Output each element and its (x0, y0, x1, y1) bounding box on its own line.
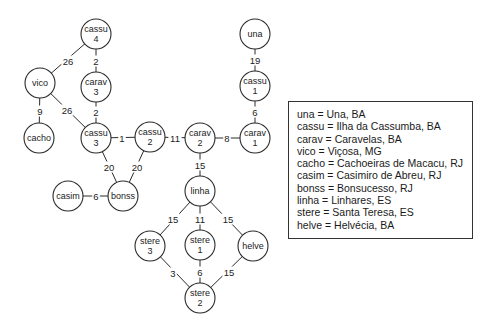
legend-entry-carav: carav = Caravelas, BA (297, 133, 472, 145)
node-carav1: carav1 (240, 123, 270, 153)
node-stere1: stere1 (185, 230, 215, 260)
edge-weight-label: 8 (224, 133, 229, 144)
node-label: linha (190, 186, 209, 196)
node-label: cassu (84, 128, 108, 138)
node-index: 1 (197, 245, 202, 255)
node-carav2: carav2 (185, 123, 215, 153)
edge-weight-label: 6 (197, 267, 202, 278)
legend-entry-una: una = Una, BA (297, 108, 472, 120)
edge-weight-label: 3 (170, 268, 175, 279)
node-casim: casim (53, 181, 83, 211)
edge-weight-label: 6 (93, 191, 98, 202)
edge-weight-label: 11 (170, 133, 180, 144)
node-label: vico (32, 78, 48, 88)
node-label: casim (56, 191, 80, 201)
node-helve: helve (238, 231, 268, 261)
node-vico: vico (25, 68, 55, 98)
edge-weight-label: 15 (224, 267, 235, 278)
node-label: helve (242, 241, 264, 251)
edge-weight-label: 6 (252, 107, 257, 118)
node-label: bonss (111, 191, 136, 201)
legend-entry-linha: linha = Linhares, ES (297, 194, 472, 206)
node-label: carav (244, 128, 267, 138)
edge-weight-label: 1 (119, 133, 124, 144)
node-una: una (240, 19, 270, 49)
node-label: cassu (243, 76, 267, 86)
node-stere3: stere3 (135, 231, 165, 261)
node-label: carav (189, 128, 212, 138)
node-index: 3 (147, 246, 152, 256)
node-cassu3: cassu3 (81, 123, 111, 153)
legend-entry-helve: helve = Helvécia, BA (297, 219, 472, 231)
node-cassu1: cassu1 (240, 71, 270, 101)
node-index: 3 (93, 87, 98, 97)
edge-weight-label: 20 (132, 162, 143, 173)
legend-entry-cassu: cassu = Ilha da Cassumba, BA (297, 120, 472, 132)
edge-weight-label: 2 (93, 56, 98, 67)
node-cassu2: cassu2 (135, 122, 165, 152)
node-label: una (247, 29, 262, 39)
node-label: carav (85, 77, 108, 87)
node-label: stere (140, 236, 160, 246)
node-index: 1 (252, 86, 257, 96)
node-label: cacho (27, 133, 51, 143)
node-index: 1 (252, 138, 257, 148)
edge-weight-label: 2 (93, 107, 98, 118)
edge-weight-label: 15 (168, 214, 179, 225)
legend-entry-stere: stere = Santa Teresa, ES (297, 206, 472, 218)
node-linha: linha (185, 176, 215, 206)
node-index: 3 (93, 138, 98, 148)
edge-weight-label: 19 (250, 55, 261, 66)
node-carav3: carav3 (81, 72, 111, 102)
node-label: cassu (84, 24, 108, 34)
node-index: 2 (147, 137, 152, 147)
node-cassu4: cassu4 (81, 19, 111, 49)
node-cacho: cacho (24, 123, 54, 153)
node-stere2: stere2 (185, 283, 215, 313)
legend-entry-vico: vico = Viçosa, MG (297, 145, 472, 157)
edge-weight-label: 15 (223, 214, 234, 225)
legend-entry-bonss: bonss = Bonsucesso, RJ (297, 182, 472, 194)
edge-weight-label: 26 (63, 56, 74, 67)
edge-weight-label: 20 (104, 162, 115, 173)
node-bonss: bonss (108, 181, 138, 211)
node-index: 2 (197, 298, 202, 308)
legend-entry-casim: casim = Casimiro de Abreu, RJ (297, 169, 472, 181)
node-index: 2 (197, 138, 202, 148)
node-index: 4 (93, 34, 98, 44)
legend-box: una = Una, BA cassu = Ilha da Cassumba, … (288, 101, 473, 239)
node-label: stere (190, 235, 210, 245)
edge-weight-label: 11 (195, 214, 205, 225)
edge-weight-label: 15 (195, 160, 206, 171)
edge-weight-label: 9 (37, 106, 42, 117)
legend-entry-cacho: cacho = Cachoeiras de Macacu, RJ (297, 157, 472, 169)
node-label: cassu (138, 127, 162, 137)
edge-weight-label: 26 (62, 105, 73, 116)
node-label: stere (190, 288, 210, 298)
